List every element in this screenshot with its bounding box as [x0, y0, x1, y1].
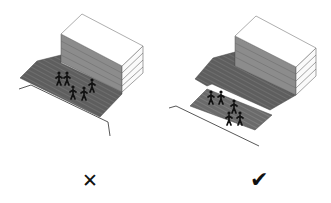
panel-bad-illustration: [19, 14, 143, 136]
panel-good-illustration: [169, 16, 316, 146]
diagram-canvas: [0, 0, 331, 203]
checkmark-icon: ✔: [250, 169, 268, 191]
cross-icon: ✕: [82, 171, 98, 190]
